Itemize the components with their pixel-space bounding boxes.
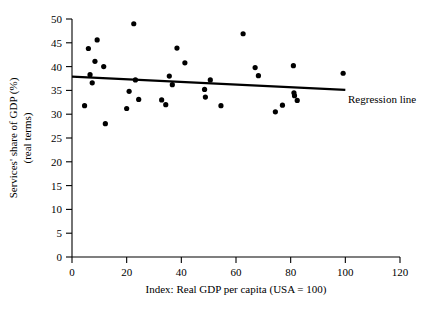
data-point [92, 59, 97, 64]
data-point [90, 80, 95, 85]
x-tick-label-40: 40 [176, 266, 188, 278]
x-tick-label-20: 20 [121, 266, 133, 278]
y-axis: 05101520253035404550 [51, 13, 72, 263]
x-tick-label-120: 120 [392, 266, 409, 278]
data-point [295, 98, 300, 103]
data-point [101, 64, 106, 69]
y-axis-title-line2: (real terms) [21, 112, 34, 163]
y-tick-label-40: 40 [51, 61, 63, 73]
x-axis-tick-labels: 020406080100120 [69, 266, 409, 278]
data-point [136, 97, 141, 102]
scatter-points [82, 21, 346, 126]
data-point [292, 93, 297, 98]
data-point [280, 103, 285, 108]
plot-canvas: 05101520253035404550 020406080100120 Reg… [0, 0, 422, 309]
data-point [291, 63, 296, 68]
data-point [218, 103, 223, 108]
data-point [174, 45, 179, 50]
y-axis-title: Services' share of GDP (%) [7, 77, 20, 198]
data-point [273, 109, 278, 114]
data-point [82, 103, 87, 108]
x-tick-label-80: 80 [285, 266, 297, 278]
data-point [127, 89, 132, 94]
data-point [341, 71, 346, 76]
data-point [170, 82, 175, 87]
y-tick-label-20: 20 [51, 156, 63, 168]
y-tick-label-50: 50 [51, 13, 63, 25]
x-tick-label-0: 0 [69, 266, 75, 278]
data-point [202, 87, 207, 92]
data-point [124, 106, 129, 111]
data-point [241, 31, 246, 36]
y-tick-label-0: 0 [57, 251, 63, 263]
x-axis: 020406080100120 [69, 257, 409, 278]
data-point [182, 60, 187, 65]
data-point [163, 102, 168, 107]
data-point [253, 65, 258, 70]
y-tick-label-30: 30 [51, 108, 63, 120]
x-axis-title: Index: Real GDP per capita (USA = 100) [146, 283, 327, 296]
y-tick-label-25: 25 [51, 132, 63, 144]
x-tick-label-60: 60 [231, 266, 243, 278]
data-point [208, 77, 213, 82]
y-tick-label-5: 5 [57, 227, 63, 239]
data-point [203, 94, 208, 99]
y-tick-label-15: 15 [51, 180, 63, 192]
data-point [131, 21, 136, 26]
x-axis-ticks [72, 257, 400, 263]
data-point [256, 73, 261, 78]
y-axis-ticks [66, 19, 72, 257]
data-point [86, 46, 91, 51]
y-tick-label-45: 45 [51, 37, 63, 49]
regression-line-label: Regression line [348, 93, 416, 105]
scatter-plot-figure: 05101520253035404550 020406080100120 Reg… [0, 0, 422, 309]
x-tick-label-100: 100 [337, 266, 354, 278]
data-point [103, 121, 108, 126]
data-point [159, 97, 164, 102]
y-axis-tick-labels: 05101520253035404550 [51, 13, 63, 263]
y-tick-label-35: 35 [51, 84, 63, 96]
y-tick-label-10: 10 [51, 203, 63, 215]
data-point [167, 74, 172, 79]
data-point [95, 37, 100, 42]
